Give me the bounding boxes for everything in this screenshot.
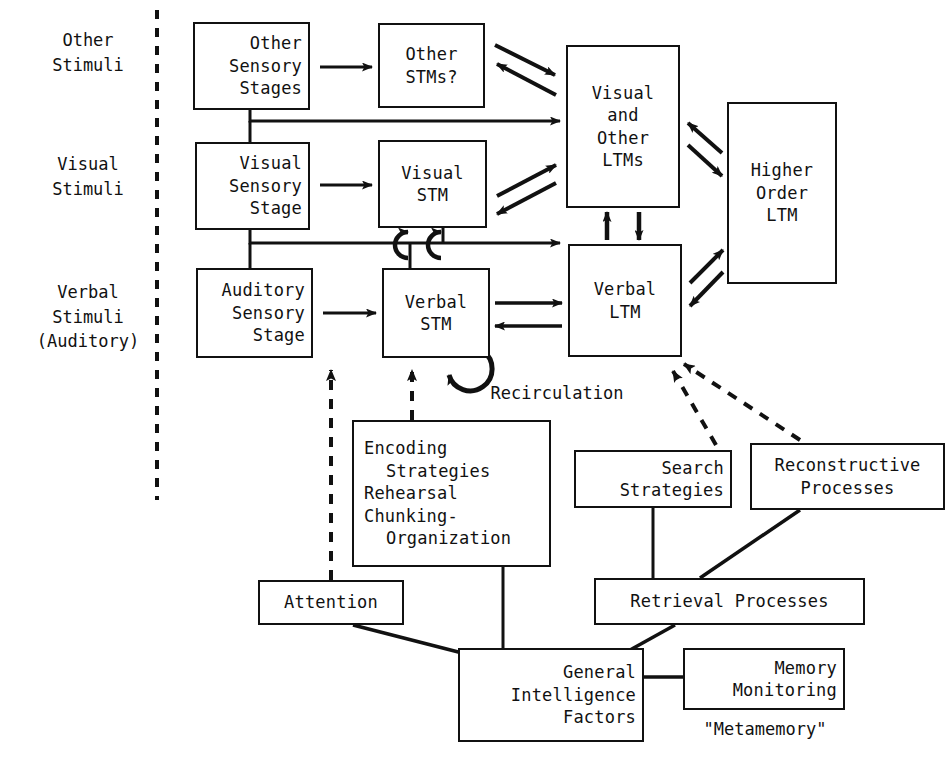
line-other-sensory-to-visual-other-ltms: [250, 110, 560, 121]
box-attention[interactable]: Attention: [258, 580, 404, 625]
stimuli-label-verbal: Verbal Stimuli (Auditory): [18, 280, 158, 354]
link-reconstructive-to-retrieval: [700, 510, 800, 578]
box-line: Other: [405, 43, 457, 65]
label-metamemory: "Metamemory": [684, 718, 846, 741]
box-line: Chunking-: [364, 505, 458, 527]
box-line: Sensory: [232, 302, 305, 324]
box-line: Encoding: [364, 437, 447, 459]
box-line: Sensory: [229, 55, 302, 77]
box-line: Auditory: [222, 279, 305, 301]
hop-curve-left: [395, 232, 408, 258]
box-line: Visual: [592, 82, 655, 104]
box-line: Search: [661, 457, 724, 479]
box-line: Strategies: [364, 460, 490, 482]
box-line: Verbal: [594, 278, 657, 300]
hop-curve-right: [428, 232, 441, 258]
box-line: STM: [420, 313, 451, 335]
link-retrieval-to-general-intelligence: [630, 625, 675, 650]
box-visual-and-other-ltms[interactable]: Visual and Other LTMs: [566, 45, 680, 208]
arrow-other-stms-to-visual-other-ltms: [495, 45, 555, 75]
box-line: Sensory: [229, 175, 302, 197]
box-higher-order-ltm[interactable]: Higher Order LTM: [727, 102, 837, 284]
box-visual-sensory-stage[interactable]: Visual Sensory Stage: [195, 142, 310, 230]
arrow-visual-other-ltms-to-visual-stm: [497, 183, 556, 214]
arrow-visual-other-ltms-to-other-stms: [497, 64, 556, 95]
box-line: Factors: [563, 706, 636, 728]
diagram-canvas: Other Stimuli Visual Stimuli Verbal Stim…: [0, 0, 949, 758]
box-other-stms[interactable]: Other STMs?: [378, 23, 485, 108]
box-line: Reconstructive: [774, 454, 920, 476]
box-line: Rehearsal: [364, 482, 458, 504]
box-line: Stages: [239, 77, 302, 99]
box-search-strategies[interactable]: Search Strategies: [574, 450, 732, 508]
dashed-arrow-search-strategies-to-verbal-ltm: [673, 371, 716, 445]
box-line: STMs?: [405, 66, 457, 88]
box-line: Strategies: [620, 479, 724, 501]
stimuli-label-other: Other Stimuli: [24, 28, 152, 77]
box-retrieval-processes[interactable]: Retrieval Processes: [594, 578, 865, 625]
box-line: Retrieval Processes: [630, 590, 828, 612]
dashed-arrow-reconstructive-to-verbal-ltm: [684, 364, 800, 440]
box-line: Monitoring: [733, 679, 837, 701]
box-line: Verbal: [405, 291, 468, 313]
box-line: Organization: [364, 527, 511, 549]
box-other-sensory-stages[interactable]: Other Sensory Stages: [193, 22, 310, 110]
box-reconstructive-processes[interactable]: Reconstructive Processes: [750, 443, 945, 510]
box-auditory-sensory-stage[interactable]: Auditory Sensory Stage: [196, 268, 313, 358]
box-line: Visual: [239, 152, 302, 174]
box-line: Other: [597, 127, 649, 149]
box-encoding-strategies[interactable]: Encoding Strategies Rehearsal Chunking- …: [352, 420, 551, 567]
box-memory-monitoring[interactable]: Memory Monitoring: [683, 648, 845, 710]
box-line: LTMs: [602, 149, 644, 171]
box-line: Other: [250, 32, 302, 54]
box-line: and: [607, 104, 638, 126]
box-line: Order: [756, 182, 808, 204]
box-verbal-ltm[interactable]: Verbal LTM: [568, 244, 682, 357]
label-recirculation: Recirculation: [452, 382, 662, 405]
box-general-intelligence-factors[interactable]: General Intelligence Factors: [458, 648, 644, 742]
box-line: Intelligence: [511, 684, 636, 706]
stimuli-label-visual: Visual Stimuli: [24, 152, 152, 201]
box-line: STM: [417, 184, 448, 206]
box-line: Processes: [801, 477, 895, 499]
box-line: General: [563, 661, 636, 683]
box-line: Attention: [284, 591, 378, 613]
arrow-visual-stm-to-visual-other-ltms: [497, 165, 556, 196]
box-line: Visual: [401, 162, 464, 184]
box-line: Stage: [250, 197, 302, 219]
box-line: LTM: [766, 204, 797, 226]
box-line: LTM: [609, 301, 640, 323]
box-visual-stm[interactable]: Visual STM: [378, 140, 487, 228]
box-verbal-stm[interactable]: Verbal STM: [382, 268, 490, 358]
box-line: Higher: [751, 159, 814, 181]
box-line: Memory: [774, 657, 837, 679]
box-line: Stage: [253, 324, 305, 346]
link-attention-to-general-intelligence: [353, 625, 470, 655]
